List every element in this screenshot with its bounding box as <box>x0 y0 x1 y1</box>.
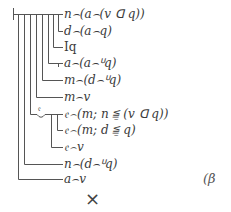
close-icon[interactable]: × <box>85 190 100 208</box>
formula-10: n⌢(d⌢ᓑq) <box>64 157 117 171</box>
formula-8: 𝔢⌢(m; d ≦̱ q) <box>64 123 136 137</box>
formula-11: a⌢v <box>64 172 86 186</box>
formula-5: m⌢(d⌢ᓑq) <box>64 73 121 87</box>
formula-9: 𝔢⌢v <box>64 140 84 154</box>
concavity-letter: 𝔢 <box>38 104 41 114</box>
formula-4: a⌢(a⌢ᓑq) <box>64 56 116 70</box>
formula-2: d⌢(a⌢q) <box>64 24 112 38</box>
begriffsschrift-diagram <box>0 0 231 212</box>
formula-7: 𝔢⌢(m; n ≦̱ (v ꓷ q)) <box>64 107 168 121</box>
formula-6: m⌢v <box>64 90 90 104</box>
formula-3: Iq <box>64 40 76 54</box>
formula-1: n⌢(a⌢(v ꓷ q)) <box>64 7 145 21</box>
equation-number: (β <box>203 171 216 186</box>
